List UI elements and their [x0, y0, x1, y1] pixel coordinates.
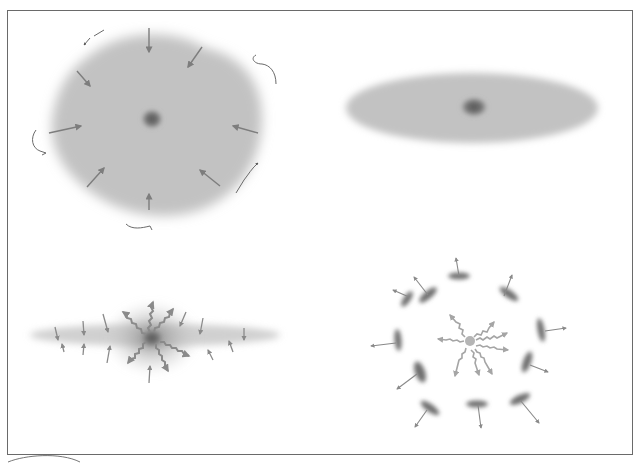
cloud-core: [141, 109, 163, 129]
panel-clump-ring: [371, 258, 566, 428]
ring-center: [465, 336, 475, 346]
page-curve: [8, 456, 80, 462]
panel-starburst-disk: [30, 300, 280, 383]
panel-collapsing-cloud: [33, 28, 276, 230]
panel-flattened-disk: [346, 73, 598, 143]
disk-core: [460, 97, 488, 117]
wavy-arrows: [438, 315, 508, 376]
diagram-canvas: [0, 0, 641, 464]
